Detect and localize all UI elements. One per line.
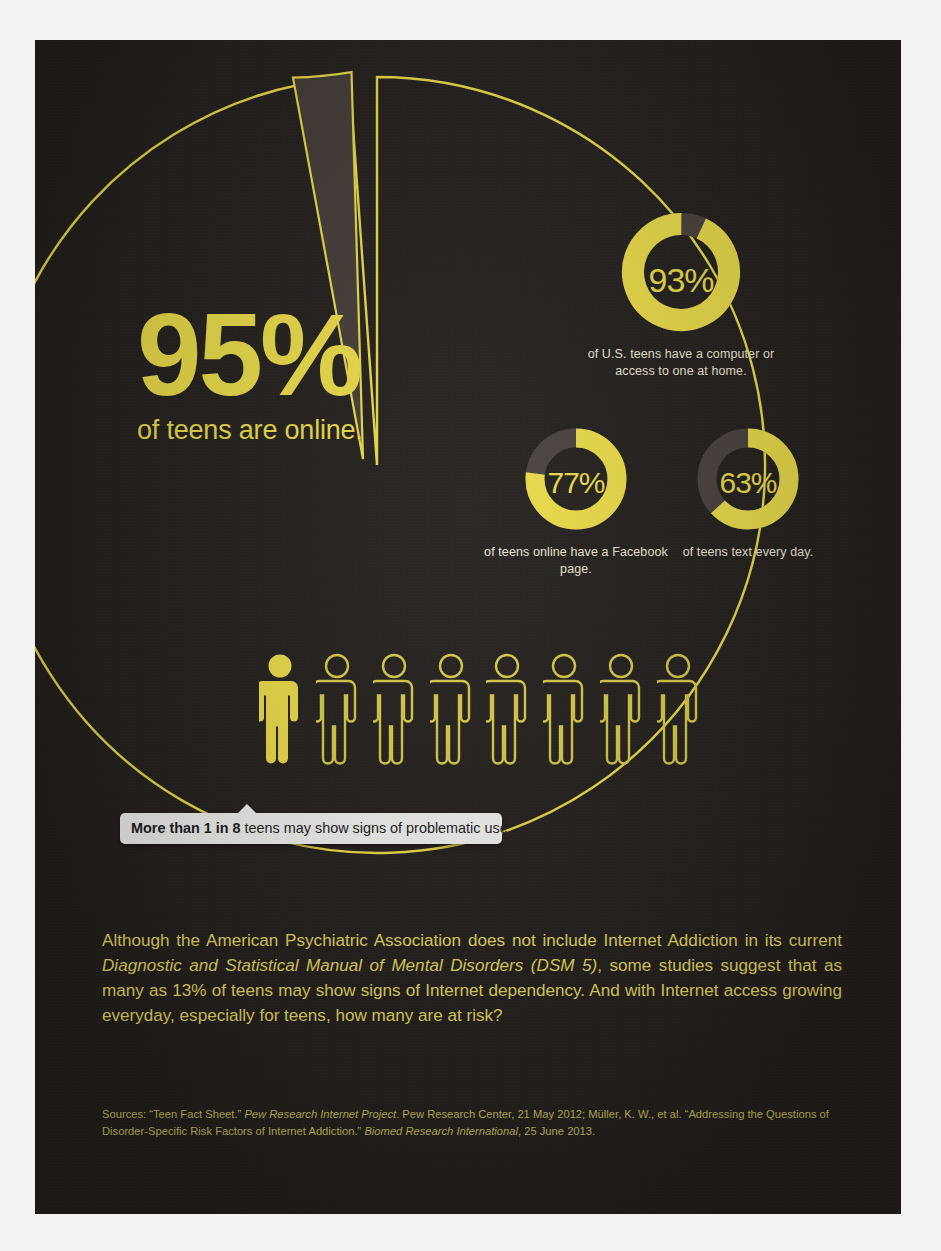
person-icon-outline: [600, 653, 642, 765]
people-pictogram: [259, 653, 699, 765]
problematic-use-tooltip: More than 1 in 8 teens may show signs of…: [120, 813, 502, 844]
infographic-poster: 95% of teens are online. 93% of U.S. tee…: [35, 40, 901, 1214]
donut-chart-computer-access: 93% of U.S. teens have a computer or acc…: [576, 207, 786, 380]
tooltip-arrow-icon: [237, 804, 257, 814]
donut-percent-93: 93%: [576, 261, 786, 300]
sources-italic-2: Biomed Research International: [364, 1125, 518, 1137]
sources-part-1: Sources: “Teen Fact Sheet.”: [102, 1108, 244, 1120]
donut-percent-77: 77%: [481, 466, 671, 500]
body-italic-title: Diagnostic and Statistical Manual of Men…: [102, 956, 597, 975]
sources-footnote: Sources: “Teen Fact Sheet.” Pew Research…: [102, 1106, 877, 1140]
tooltip-bold-text: More than 1 in 8: [131, 820, 241, 836]
donut-caption-63: of teens text every day.: [653, 544, 843, 561]
donut-chart-facebook-page: 77% of teens online have a Facebook page…: [481, 423, 671, 578]
body-paragraph: Although the American Psychiatric Associ…: [102, 928, 842, 1029]
person-icon-outline: [486, 653, 528, 765]
hero-caption: of teens are online.: [137, 415, 467, 446]
donut-percent-63: 63%: [653, 466, 843, 500]
hero-stat: 95% of teens are online.: [137, 302, 467, 446]
donut-caption-77: of teens online have a Facebook page.: [481, 544, 671, 578]
donut-caption-93: of U.S. teens have a computer or access …: [576, 346, 786, 380]
sources-part-3: , 25 June 2013.: [518, 1125, 595, 1137]
donut-chart-daily-texting: 63% of teens text every day.: [653, 423, 843, 561]
hero-percent: 95%: [137, 302, 467, 409]
person-icon-filled: [259, 653, 301, 765]
person-icon-outline: [543, 653, 585, 765]
person-icon-outline: [657, 653, 699, 765]
tooltip-rest-text: teens may show signs of problematic use.: [241, 820, 512, 836]
person-icon-outline: [373, 653, 415, 765]
body-part-1: Although the American Psychiatric Associ…: [102, 931, 842, 950]
person-icon-outline: [430, 653, 472, 765]
sources-italic-1: Pew Research Internet Project: [244, 1108, 396, 1120]
person-icon-outline: [316, 653, 358, 765]
